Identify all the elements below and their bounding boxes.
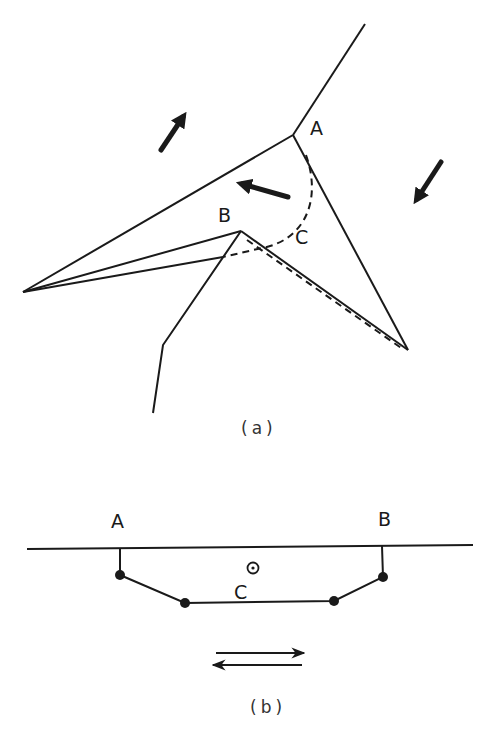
- reversible-arrows: [213, 653, 304, 665]
- caption-a: (a): [241, 418, 277, 438]
- arrow-up-right-icon: [161, 117, 183, 150]
- label-b-a: A: [111, 510, 124, 532]
- arrow-down-left-icon: [417, 162, 441, 199]
- dashed-parallel: [247, 240, 404, 350]
- dislocation-diagram: A B C (a) A B C (b): [0, 0, 495, 731]
- caption-b: (b): [250, 697, 286, 717]
- node-3: [329, 596, 339, 606]
- out-of-plane-icon: [248, 563, 259, 574]
- b-to-right-tip: [241, 231, 408, 350]
- figure-b: A B C (b): [27, 508, 473, 717]
- label-b-c: C: [234, 581, 247, 603]
- solid-boundaries: [23, 24, 408, 413]
- arrow-left-icon: [242, 184, 288, 197]
- label-b-b: B: [378, 508, 391, 530]
- b-upper-edge: [23, 231, 241, 292]
- node-4: [378, 572, 388, 582]
- node-1: [115, 570, 125, 580]
- label-c: C: [295, 226, 308, 248]
- upper-ray: [293, 24, 365, 135]
- node-2: [180, 598, 190, 608]
- slip-plane-baseline: [27, 545, 473, 549]
- lower-ray: [153, 231, 241, 413]
- label-a: A: [310, 117, 323, 139]
- label-b: B: [218, 204, 231, 226]
- dislocation-chain: [120, 546, 383, 603]
- figure-a: A B C (a): [23, 24, 441, 438]
